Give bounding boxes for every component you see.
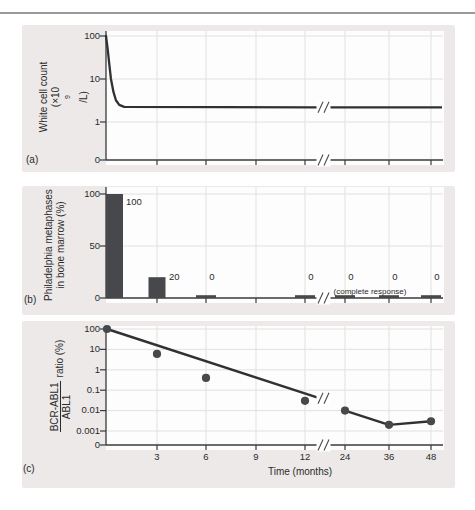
y-tick-label: 100 — [70, 31, 100, 41]
bar-value-label: 0 — [200, 272, 224, 282]
bar-value-label: 0 — [339, 272, 363, 282]
x-tick-label: 12 — [293, 452, 317, 462]
bar-value-label: 0 — [425, 272, 449, 282]
y-tick-label: 10 — [70, 344, 100, 354]
ratio-suffix-label: ratio (%) — [54, 340, 66, 378]
y-tick-label: 100 — [70, 324, 100, 334]
metaphases-y-axis-label-line1: Philadelphia metaphases — [43, 189, 55, 301]
x-tick-label: 36 — [377, 452, 401, 462]
bcr-abl1-fraction: BCR-ABL1 ABL1 — [49, 381, 72, 432]
x-axis-title: Time (months) — [230, 467, 370, 477]
wcc-y-axis-label: White cell count (×109/L) — [51, 47, 77, 147]
bar-value-label: 0 — [299, 272, 323, 282]
bar-value-label: 0 — [383, 272, 407, 282]
panel-letter-a: (a) — [26, 155, 38, 165]
y-tick-label: 1 — [70, 365, 100, 375]
complete-response-note: (complete response) — [305, 287, 435, 297]
y-tick-label: 0 — [70, 155, 100, 165]
x-tick-label: 3 — [145, 452, 169, 462]
y-tick-label: 0.001 — [70, 426, 100, 436]
x-tick-label: 24 — [333, 452, 357, 462]
y-tick-label: 50 — [70, 241, 100, 251]
x-tick-label: 48 — [419, 452, 443, 462]
y-tick-label: 1 — [70, 117, 100, 127]
bar-value-label: 100 — [126, 197, 142, 207]
top-divider-rule — [0, 12, 475, 14]
y-tick-label: 0 — [70, 293, 100, 303]
metaphases-y-axis-label-line2: in bone marrow (%) — [55, 189, 67, 301]
metaphases-y-axis-label: Philadelphia metaphases in bone marrow (… — [42, 180, 68, 310]
panel-letter-c: (c) — [23, 464, 35, 474]
wcc-y-axis-label-line1: White cell count — [38, 62, 50, 133]
y-tick-label: 10 — [70, 74, 100, 84]
y-tick-label: 0.1 — [70, 385, 100, 395]
y-tick-label: 100 — [70, 189, 100, 199]
x-tick-label: 9 — [244, 452, 268, 462]
x-tick-label: 6 — [194, 452, 218, 462]
y-tick-label: 0 — [70, 440, 100, 450]
panel-letter-b: (b) — [24, 295, 36, 305]
y-tick-label: 0.01 — [70, 405, 100, 415]
bar-value-label: 20 — [169, 272, 180, 282]
